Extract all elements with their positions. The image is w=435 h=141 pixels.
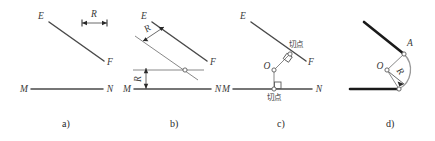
panel-b-offset-line-EF — [135, 36, 198, 80]
panel-d-label-A: A — [406, 38, 413, 48]
panel-b-label-N: N — [214, 84, 222, 94]
panel-c-label-tangent-upper: 切点 — [289, 40, 304, 49]
panel-a: E F M N R — [19, 9, 114, 94]
panel-a-label-R: R — [90, 9, 97, 19]
panel-d-label-R: R — [394, 65, 406, 77]
panel-a-label-M: M — [19, 84, 29, 94]
panel-b-label-E: E — [140, 11, 147, 21]
panel-b-offset-dimension-MN: R — [133, 68, 148, 89]
fillet-construction-figure: E F M N R R R E — [0, 0, 435, 141]
panel-c-label-O: O — [264, 61, 271, 71]
panel-b-offset-dimension-EF: R — [141, 23, 164, 42]
panel-a-line-EF — [49, 22, 104, 61]
panel-a-radius-dimension — [82, 20, 107, 27]
caption-panel-d: d) — [386, 118, 394, 129]
panel-b-arrow-MN-bottom — [144, 84, 148, 89]
panel-c-tangent-point-lower — [272, 87, 276, 91]
panel-b-intersection-point — [183, 68, 187, 72]
panel-b: R R E F M N — [122, 11, 222, 94]
panel-d-line-upper — [364, 22, 404, 54]
panel-a-arrow-left — [82, 21, 87, 25]
panel-b-label-F: F — [209, 57, 216, 67]
panel-a-label-F: F — [106, 57, 113, 67]
panel-b-label-R-MN: R — [133, 76, 143, 83]
panel-b-arrow-MN-top — [144, 68, 148, 73]
panel-c-label-F: F — [307, 57, 314, 67]
panel-c-label-tangent-lower: 切点 — [267, 93, 282, 102]
panel-d-center-point — [385, 68, 389, 72]
panel-d: A O R — [350, 22, 413, 91]
panel-c-label-M: M — [221, 84, 231, 94]
caption-panel-a: a) — [62, 118, 70, 129]
caption-panel-b: b) — [170, 118, 178, 129]
panel-d-label-O: O — [377, 61, 384, 71]
panel-a-label-E: E — [37, 11, 44, 21]
panel-d-tangent-point-lower — [397, 87, 401, 91]
caption-panel-c: c) — [277, 118, 285, 129]
panel-b-label-R-EF: R — [141, 23, 152, 35]
panel-d-tangent-point-A — [402, 52, 406, 56]
panel-b-label-M: M — [122, 84, 132, 94]
panel-c-label-E: E — [239, 11, 246, 21]
panel-c-label-N: N — [315, 84, 323, 94]
panel-c-tangent-point-upper — [288, 52, 292, 56]
panel-a-arrow-right — [102, 21, 107, 25]
panel-c-center-point — [272, 68, 276, 72]
panel-c: E F M N O 切点 切点 — [221, 11, 323, 102]
panel-a-label-N: N — [106, 84, 114, 94]
